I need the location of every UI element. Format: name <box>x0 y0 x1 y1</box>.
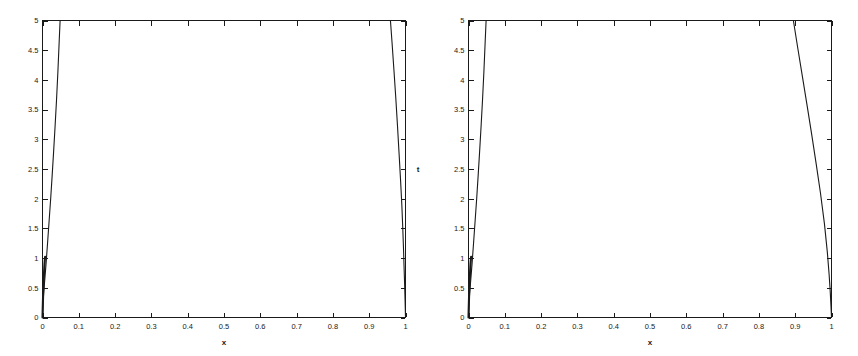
y-tick-label: 1.5 <box>28 224 38 233</box>
y-tick-label: 1.5 <box>454 224 464 233</box>
axes-box-left <box>43 21 406 318</box>
x-tick-label: 0.7 <box>717 322 727 331</box>
x-tick-label: 0.9 <box>790 322 800 331</box>
y-tick-label: 5 <box>34 16 38 25</box>
x-tick-label: 0.7 <box>291 322 301 331</box>
x-tick-label: 0.4 <box>608 322 618 331</box>
y-tick-label: 3.5 <box>454 105 464 114</box>
x-tick-label: 0.9 <box>364 322 374 331</box>
y-tick-label: 3 <box>34 135 38 144</box>
x-tick-label: 0.2 <box>110 322 120 331</box>
y-tick-label: 2 <box>460 195 464 204</box>
y-tick-label: 2 <box>34 195 38 204</box>
x-tick-label: 1 <box>403 322 407 331</box>
plot-svg-right: 00.10.20.30.40.50.60.70.80.91 00.511.522… <box>429 0 858 356</box>
y-tick-label: 4.5 <box>28 46 38 55</box>
y-tick-labels-right: 00.511.522.533.544.55 <box>454 16 464 322</box>
x-tick-label: 0 <box>466 322 470 331</box>
x-tick-label: 0.1 <box>500 322 510 331</box>
y-tick-label: 4 <box>460 76 464 85</box>
x-ticks-left <box>44 21 407 317</box>
y-tick-label: 0 <box>34 313 38 322</box>
x-tick-label: 0.8 <box>328 322 338 331</box>
y-tick-label: 2.5 <box>28 165 38 174</box>
chart-panel-left: 00.10.20.30.40.50.60.70.80.91 00.511.522… <box>0 0 429 356</box>
x-tick-label: 0.8 <box>754 322 764 331</box>
data-curve <box>793 21 831 318</box>
figure-canvas: 00.10.20.30.40.50.60.70.80.91 00.511.522… <box>0 0 858 356</box>
x-ticks-right <box>470 21 833 317</box>
x-tick-label: 0.3 <box>146 322 156 331</box>
y-tick-label: 4.5 <box>454 46 464 55</box>
x-tick-label: 0.5 <box>219 322 229 331</box>
y-tick-label: 3 <box>460 135 464 144</box>
x-tick-label: 0.5 <box>645 322 655 331</box>
y-tick-label: 3.5 <box>28 105 38 114</box>
x-tick-label: 0.4 <box>182 322 192 331</box>
y-tick-label: 0.5 <box>28 284 38 293</box>
y-tick-labels-left: 00.511.522.533.544.55 <box>28 16 38 322</box>
chart-panel-right: 00.10.20.30.40.50.60.70.80.91 00.511.522… <box>429 0 858 356</box>
x-tick-label: 0.3 <box>572 322 582 331</box>
x-tick-labels-left: 00.10.20.30.40.50.60.70.80.91 <box>40 322 407 331</box>
y-tick-label: 1 <box>460 254 464 263</box>
curve-group-left <box>43 21 406 318</box>
y-ticks-right <box>469 22 831 319</box>
y-tick-label: 2.5 <box>454 165 464 174</box>
curve-group-right <box>469 21 832 318</box>
y-tick-label: 0.5 <box>454 284 464 293</box>
y-ticks-left <box>43 22 405 319</box>
y-tick-label: 1 <box>34 254 38 263</box>
x-axis-label-left: x <box>222 338 227 347</box>
axes-box-right <box>469 21 832 318</box>
x-tick-label: 0.1 <box>74 322 84 331</box>
x-axis-label-right: x <box>648 338 653 347</box>
x-tick-label: 1 <box>829 322 833 331</box>
x-tick-label: 0 <box>40 322 44 331</box>
y-axis-label-left: t <box>417 165 420 174</box>
x-tick-label: 0.6 <box>255 322 265 331</box>
plot-svg-left: 00.10.20.30.40.50.60.70.80.91 00.511.522… <box>0 0 429 356</box>
y-tick-label: 4 <box>34 76 38 85</box>
y-tick-label: 0 <box>460 313 464 322</box>
x-tick-label: 0.2 <box>536 322 546 331</box>
x-tick-labels-right: 00.10.20.30.40.50.60.70.80.91 <box>466 322 833 331</box>
y-tick-label: 5 <box>460 16 464 25</box>
x-tick-label: 0.6 <box>681 322 691 331</box>
